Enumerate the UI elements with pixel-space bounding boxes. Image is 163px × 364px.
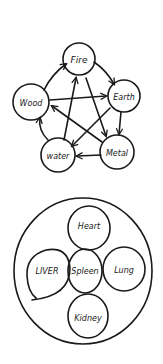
node-fire: Fire <box>63 43 95 75</box>
arrow-wood-to-earth <box>50 96 106 100</box>
node-label: Heart <box>78 222 101 231</box>
node-water: water <box>41 138 75 172</box>
node-label: Fire <box>71 55 88 65</box>
node-heart: Heart <box>68 206 110 250</box>
arrow-fire-to-earth <box>94 62 114 84</box>
diagram-canvas: Fire Earth Metal water Wood Heart LIVER <box>0 0 163 364</box>
arrow-water-to-wood <box>40 118 48 140</box>
node-label: Spleen <box>71 267 98 276</box>
node-label: Kidney <box>74 314 102 323</box>
node-label: water <box>47 152 71 161</box>
node-label: Metal <box>106 149 129 158</box>
arrow-earth-to-metal <box>119 112 121 134</box>
node-earth: Earth <box>108 80 140 112</box>
node-kidney: Kidney <box>68 294 108 338</box>
node-label: Wood <box>20 99 44 108</box>
organs-diagram: Heart LIVER Spleen Lung Kidney <box>14 198 152 344</box>
arrow-metal-to-water <box>77 155 101 156</box>
five-elements-diagram: Fire Earth Metal water Wood <box>13 43 140 172</box>
arrow-fire-to-metal <box>86 78 106 136</box>
arrow-water-to-fire <box>64 78 76 140</box>
node-lung: Lung <box>103 247 145 291</box>
node-label: LIVER <box>36 267 59 276</box>
node-metal: Metal <box>100 135 134 169</box>
node-label: Lung <box>114 266 134 275</box>
node-label: Earth <box>113 93 134 102</box>
node-wood: Wood <box>13 84 49 120</box>
node-liver: LIVER <box>27 249 70 300</box>
arrow-wood-to-fire <box>44 64 66 90</box>
node-spleen: Spleen <box>68 249 102 293</box>
